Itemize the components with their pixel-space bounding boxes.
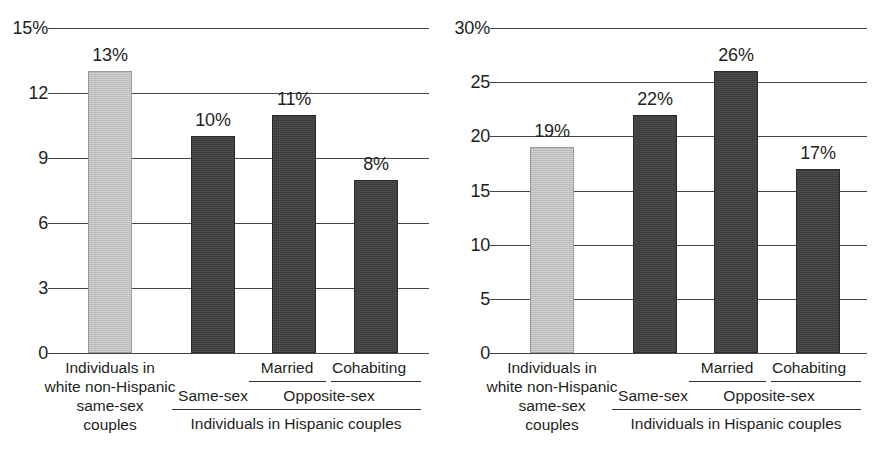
tick-dash-30pct: [490, 28, 499, 29]
y-tick-label: 3: [38, 278, 48, 299]
x-label-hispanic-couples: Individuals in Hispanic couples: [630, 414, 841, 433]
bar-3: [714, 71, 758, 353]
bar-value-label-4: 8%: [363, 154, 389, 175]
x-label-same-sex: Same-sex: [178, 386, 248, 405]
y-tick-label: 6: [38, 213, 48, 234]
tick-dash-0: [490, 353, 499, 354]
gridline-0: [57, 353, 429, 354]
chart-panel-right: 30%252015105019%22%26%17% Individuals in…: [440, 0, 879, 470]
x-label-reference-line2: white non-Hispanic: [487, 378, 618, 395]
bar-value-label-3: 26%: [718, 45, 753, 66]
y-tick-label: 10: [470, 234, 490, 255]
bar-value-label-3: 11%: [277, 89, 311, 110]
tick-dash-5: [490, 299, 499, 300]
bar-value-label-2: 10%: [195, 110, 230, 131]
tick-dash-10: [490, 245, 499, 246]
x-label-reference-line4: couples: [83, 416, 136, 433]
rule-cohabiting: [771, 381, 861, 382]
y-tick-label: 9: [38, 148, 48, 169]
bar-3: [272, 115, 316, 353]
bar-value-label-1: 19%: [534, 121, 569, 142]
y-tick-label: 25: [470, 72, 490, 93]
x-label-reference-line1: Individuals in: [507, 359, 597, 376]
tick-dash-9: [48, 158, 57, 159]
tick-dash-15pct: [48, 28, 57, 29]
gridline-25: [499, 82, 867, 83]
bar-1: [530, 147, 574, 353]
rule-hispanic: [172, 409, 421, 410]
x-axis-labels-left: Individuals in white non-Hispanic same-s…: [0, 356, 440, 470]
bar-value-label-1: 13%: [92, 45, 127, 66]
gridline-15pct: [57, 28, 429, 29]
y-tick-label: 12: [28, 83, 48, 104]
rule-married: [249, 381, 326, 382]
y-tick-label: 20: [470, 126, 490, 147]
plot-area-right: 30%252015105019%22%26%17%: [499, 28, 867, 353]
x-label-reference-line2: white non-Hispanic: [45, 378, 176, 395]
gridline-0: [499, 353, 867, 354]
x-label-married: Married: [701, 358, 754, 377]
x-label-reference-line3: same-sex: [518, 397, 585, 414]
x-label-reference-line1: Individuals in: [65, 359, 155, 376]
x-label-reference-group: Individuals in white non-Hispanic same-s…: [15, 358, 205, 434]
x-label-married: Married: [261, 358, 314, 377]
x-label-cohabiting: Cohabiting: [332, 358, 406, 377]
x-label-reference-line4: couples: [525, 416, 578, 433]
tick-dash-20: [490, 136, 499, 137]
bar-4: [354, 180, 398, 353]
x-label-opposite-sex: Opposite-sex: [283, 386, 374, 405]
y-tick-label: 15%: [13, 18, 48, 39]
x-label-opposite-sex: Opposite-sex: [723, 386, 814, 405]
tick-dash-25: [490, 82, 499, 83]
bar-value-label-4: 17%: [800, 143, 835, 164]
tick-dash-3: [48, 288, 57, 289]
y-tick-label: 15: [470, 180, 490, 201]
rule-married: [689, 381, 766, 382]
rule-cohabiting: [331, 381, 421, 382]
bar-chart-figure: 15%12963013%10%11%8% Individuals in whit…: [0, 0, 879, 470]
bar-value-label-2: 22%: [637, 89, 672, 110]
bar-4: [796, 169, 840, 353]
gridline-30pct: [499, 28, 867, 29]
bar-2: [191, 136, 235, 353]
tick-dash-15: [490, 191, 499, 192]
tick-dash-6: [48, 223, 57, 224]
x-axis-labels-right: Individuals in white non-Hispanic same-s…: [440, 356, 879, 470]
rule-hispanic: [612, 409, 861, 410]
bar-2: [633, 115, 677, 353]
bar-1: [88, 71, 132, 353]
plot-area-left: 15%12963013%10%11%8%: [57, 28, 429, 353]
y-tick-label: 5: [480, 288, 490, 309]
x-label-same-sex: Same-sex: [618, 386, 688, 405]
chart-panel-left: 15%12963013%10%11%8% Individuals in whit…: [0, 0, 440, 470]
tick-dash-12: [48, 93, 57, 94]
x-label-hispanic-couples: Individuals in Hispanic couples: [190, 414, 401, 433]
x-label-reference-line3: same-sex: [76, 397, 143, 414]
x-label-cohabiting: Cohabiting: [772, 358, 846, 377]
y-tick-label: 30%: [455, 18, 490, 39]
tick-dash-0: [48, 353, 57, 354]
